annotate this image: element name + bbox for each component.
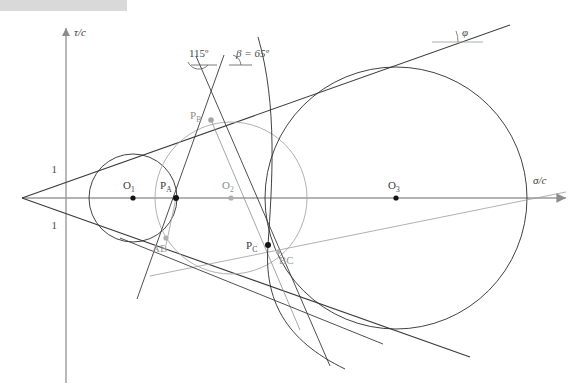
plane-labels-group: AB BC [152, 242, 294, 266]
angle-phi-label: φ [462, 26, 468, 38]
mohr-diagram-canvas: 115º β = 65º φ τ/c σ/c 1 1 [0, 0, 577, 389]
point-dot-AB [163, 235, 168, 240]
tick-label-lower-one: 1 [52, 219, 58, 231]
mohr-diagram-figure: 115º β = 65º φ τ/c σ/c 1 1 [0, 0, 577, 389]
sigma-axis-label: σ/c [533, 174, 546, 186]
point-label-O3-main: O [388, 179, 396, 191]
point-label-PC-sub: C [252, 245, 257, 254]
tau-axis-label: τ/c [74, 26, 86, 38]
pole-arc-through-pc [258, 37, 345, 369]
plane-label-BC: BC [279, 254, 294, 266]
angle-115-arc [188, 62, 208, 69]
point-labels-group: O1 PA O2 PB PC O3 [123, 109, 400, 254]
point-dot-PA [173, 195, 179, 201]
point-dot-PC [265, 242, 271, 248]
envelope-lower-line [22, 198, 470, 357]
angle-marker-beta: β = 65º [229, 47, 269, 65]
point-label-O2-main: O [222, 179, 230, 191]
tick-label-upper-one: 1 [52, 163, 58, 175]
point-label-O1: O1 [123, 179, 135, 194]
pole-chord-pb-pc [211, 120, 300, 330]
pole-arc-group [258, 37, 345, 369]
angle-marker-phi: φ [432, 26, 483, 42]
point-label-O3-sub: 3 [396, 185, 400, 194]
angle-115-label: 115º [189, 47, 209, 59]
point-dot-PB [208, 117, 214, 123]
point-label-PB-sub: B [196, 115, 201, 124]
point-label-O3: O3 [388, 179, 400, 194]
point-label-PB: PB [190, 109, 201, 124]
plane-bc-direction-line [196, 56, 330, 366]
plane-label-AB: AB [152, 242, 167, 254]
point-label-O1-sub: 1 [131, 185, 135, 194]
point-label-O1-main: O [123, 179, 131, 191]
angle-beta-label: β = 65º [235, 47, 269, 59]
pole-ray-pc-right [150, 192, 566, 276]
point-label-PA-sub: A [166, 185, 172, 194]
pole-construction-lines [120, 55, 566, 366]
point-label-PA: PA [160, 179, 172, 194]
point-label-PC: PC [246, 239, 257, 254]
axis-group [22, 28, 566, 383]
point-dot-O2 [228, 195, 233, 200]
angle-phi-arc [456, 31, 458, 42]
point-label-O2: O2 [222, 179, 234, 194]
point-label-O2-sub: 2 [230, 185, 234, 194]
point-dot-O3 [393, 195, 398, 200]
point-dot-O1 [130, 195, 135, 200]
angle-marker-115: 115º [188, 47, 217, 69]
axis-labels-group: τ/c σ/c 1 1 [52, 26, 547, 231]
